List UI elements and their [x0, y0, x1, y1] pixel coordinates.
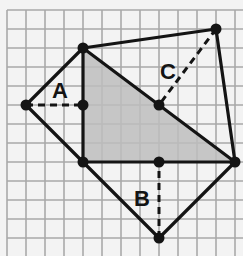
diagram-svg: A B C: [0, 0, 243, 256]
label-c: C: [160, 59, 176, 84]
geometry-diagram: A B C: [0, 0, 243, 256]
label-b: B: [134, 186, 150, 211]
label-a: A: [52, 78, 68, 103]
